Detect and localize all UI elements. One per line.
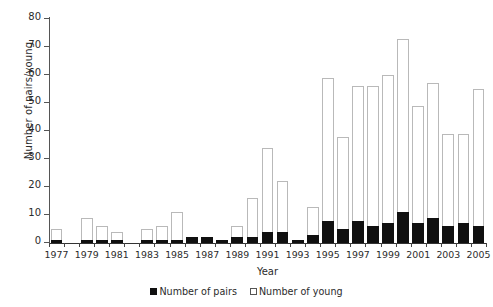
bar-pairs (231, 237, 243, 243)
x-axis-tick (471, 243, 472, 247)
bar-young (322, 78, 334, 243)
x-axis-tick-label: 1987 (195, 249, 219, 260)
bar-pairs (81, 240, 93, 243)
y-axis-tick-label: 0 (35, 235, 41, 246)
legend-label: Number of young (259, 286, 343, 297)
x-axis-tick (486, 243, 487, 247)
x-axis-tick (170, 243, 171, 247)
x-axis-tick-label: 1985 (165, 249, 189, 260)
bar-young (352, 86, 364, 243)
bar-pairs (442, 226, 454, 243)
chart-legend: Number of pairsNumber of young (0, 286, 493, 297)
y-axis-tick-label: 50 (28, 95, 41, 106)
x-axis-tick-label: 1997 (346, 249, 370, 260)
bar-pairs (292, 240, 304, 243)
bar-pairs (367, 226, 379, 243)
bar-pairs (216, 240, 228, 243)
y-axis-tick: 70 (44, 46, 49, 47)
x-axis-tick (230, 243, 231, 247)
bar-young (262, 148, 274, 243)
bar-pairs (352, 221, 364, 243)
x-axis-tick-label: 1983 (135, 249, 159, 260)
bar-chart-figure: Number of pairs/young 01020304050607080 … (0, 0, 493, 307)
x-axis-tick-label: 1977 (45, 249, 69, 260)
bar-pairs (156, 240, 168, 243)
legend-label: Number of pairs (159, 286, 236, 297)
bar-pairs (171, 240, 183, 243)
x-axis-tick (350, 243, 351, 247)
bar-pairs (473, 226, 485, 243)
y-axis-tick-label: 60 (28, 67, 41, 78)
bar-pairs (201, 237, 213, 243)
y-axis-tick: 50 (44, 102, 49, 103)
bar-pairs (382, 223, 394, 243)
bar-pairs (186, 237, 198, 243)
plot-area: 01020304050607080 1977197919811983198519… (49, 19, 486, 243)
bar-young (247, 198, 259, 243)
y-axis-tick-label: 10 (28, 207, 41, 218)
x-axis-tick (64, 243, 65, 247)
x-axis-tick (305, 243, 306, 247)
bar-pairs (458, 223, 470, 243)
bar-pairs (427, 218, 439, 243)
x-axis-tick-label: 1993 (286, 249, 310, 260)
bar-young (382, 75, 394, 243)
bar-pairs (96, 240, 108, 243)
bar-young (367, 86, 379, 243)
y-axis-tick: 10 (44, 214, 49, 215)
bar-young (473, 89, 485, 243)
x-axis-tick (320, 243, 321, 247)
x-axis-title: Year (49, 266, 486, 277)
x-axis-line (49, 243, 486, 244)
x-axis-tick-label: 1981 (105, 249, 129, 260)
x-axis-tick (381, 243, 382, 247)
bar-pairs (307, 235, 319, 243)
y-axis-tick: 20 (44, 186, 49, 187)
y-axis-tick: 40 (44, 130, 49, 131)
x-axis-tick (441, 243, 442, 247)
x-axis-tick (245, 243, 246, 247)
y-axis-tick: 80 (44, 18, 49, 19)
x-axis-tick-label: 1979 (75, 249, 99, 260)
x-axis-tick (200, 243, 201, 247)
x-axis-tick (94, 243, 95, 247)
y-axis-tick: 60 (44, 74, 49, 75)
x-axis-tick-label: 1989 (225, 249, 249, 260)
bar-young (337, 137, 349, 243)
y-axis-tick-label: 70 (28, 39, 41, 50)
x-axis-tick (109, 243, 110, 247)
x-axis-tick (290, 243, 291, 247)
x-axis-tick-label: 2003 (436, 249, 460, 260)
x-axis-tick (215, 243, 216, 247)
bar-pairs (277, 232, 289, 243)
x-axis-tick (275, 243, 276, 247)
bar-pairs (412, 223, 424, 243)
x-axis-tick (411, 243, 412, 247)
bar-pairs (247, 237, 259, 243)
y-axis-tick-label: 20 (28, 179, 41, 190)
bar-pairs (322, 221, 334, 243)
x-axis-tick-label: 2001 (406, 249, 430, 260)
x-axis-tick (426, 243, 427, 247)
bar-pairs (141, 240, 153, 243)
x-axis-tick (260, 243, 261, 247)
bar-pairs (51, 240, 63, 243)
x-axis-tick (456, 243, 457, 247)
x-axis-tick (49, 243, 50, 247)
y-axis-tick-label: 30 (28, 151, 41, 162)
x-axis-tick (139, 243, 140, 247)
legend-item: Number of pairs (150, 286, 236, 297)
x-axis-tick-label: 1991 (256, 249, 280, 260)
x-axis-tick (124, 243, 125, 247)
legend-swatch-icon (250, 288, 257, 295)
bar-pairs (397, 212, 409, 243)
legend-item: Number of young (250, 286, 343, 297)
y-axis-tick-label: 80 (28, 11, 41, 22)
x-axis-tick-label: 1995 (316, 249, 340, 260)
x-axis-tick (365, 243, 366, 247)
x-axis-tick (185, 243, 186, 247)
bar-pairs (262, 232, 274, 243)
y-axis-tick-label: 40 (28, 123, 41, 134)
x-axis-tick-label: 1999 (376, 249, 400, 260)
legend-swatch-icon (150, 288, 157, 295)
